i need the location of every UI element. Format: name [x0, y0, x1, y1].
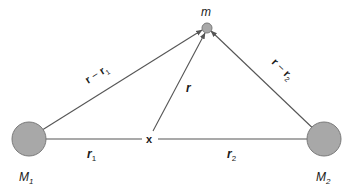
vector-r-line: [153, 33, 205, 131]
label-origin-x: x: [146, 133, 153, 145]
mass-m1-circle: [12, 122, 46, 156]
label-M1: M1: [19, 170, 33, 186]
svg-text:r − r1: r − r1: [83, 62, 112, 87]
label-r2: r2: [227, 147, 237, 163]
mass-m-circle: [202, 23, 212, 33]
svg-text:M1: M1: [19, 170, 33, 186]
gravity-vector-diagram: m x M1 M2 r1 r2 r r − r1 r − r2: [0, 0, 350, 188]
label-M2: M2: [316, 170, 331, 186]
svg-text:r2: r2: [227, 147, 237, 163]
label-r1: r1: [87, 147, 97, 163]
label-m: m: [201, 5, 211, 19]
mass-m2-circle: [307, 122, 341, 156]
vector-r-minus-r2-line: [211, 31, 321, 136]
vector-r-minus-r1-line: [31, 30, 202, 137]
label-r-minus-r2: r − r2: [268, 56, 296, 84]
label-r: r: [186, 81, 192, 95]
svg-text:M2: M2: [316, 170, 331, 186]
svg-text:r − r2: r − r2: [268, 56, 296, 84]
label-r-minus-r1: r − r1: [83, 62, 112, 87]
svg-text:r1: r1: [87, 147, 97, 163]
